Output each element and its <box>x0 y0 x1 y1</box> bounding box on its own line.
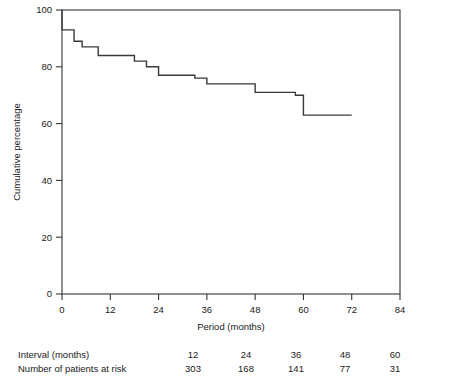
risk-table-interval-2: 36 <box>291 349 302 360</box>
y-axis-title: Cumulative percentage <box>11 103 22 201</box>
risk-table-interval-1: 24 <box>241 349 252 360</box>
risk-table-at-risk-4: 31 <box>390 363 401 374</box>
x-tick-label-36: 36 <box>202 304 213 315</box>
y-tick-label-0: 0 <box>47 288 52 299</box>
risk-table-row-label-at-risk: Number of patients at risk <box>18 363 126 374</box>
risk-table-at-risk-3: 77 <box>340 363 351 374</box>
y-tick-label-40: 40 <box>41 175 52 186</box>
risk-table-row-label-interval: Interval (months) <box>18 349 89 360</box>
risk-table-at-risk-0: 303 <box>185 363 201 374</box>
x-axis-title: Period (months) <box>197 321 265 332</box>
x-axis-ticks <box>62 294 400 300</box>
x-tick-label-60: 60 <box>298 304 309 315</box>
risk-table-interval-3: 48 <box>340 349 351 360</box>
x-tick-label-24: 24 <box>153 304 164 315</box>
risk-table-at-risk-2: 141 <box>288 363 304 374</box>
plot-frame <box>62 10 400 294</box>
x-tick-label-84: 84 <box>395 304 406 315</box>
risk-table-interval-4: 60 <box>390 349 401 360</box>
survival-step-curve <box>62 10 352 115</box>
y-tick-label-20: 20 <box>41 232 52 243</box>
y-axis-ticks <box>56 10 62 294</box>
risk-table-at-risk-row: 303 168 141 77 31 <box>185 363 400 374</box>
x-tick-label-0: 0 <box>59 304 64 315</box>
y-tick-label-80: 80 <box>41 61 52 72</box>
risk-table-interval-0: 12 <box>188 349 199 360</box>
x-tick-label-48: 48 <box>250 304 261 315</box>
x-tick-label-72: 72 <box>346 304 357 315</box>
x-tick-label-12: 12 <box>105 304 116 315</box>
risk-table-intervals-row: 12 24 36 48 60 <box>188 349 401 360</box>
risk-table-at-risk-1: 168 <box>238 363 254 374</box>
y-tick-label-100: 100 <box>36 4 52 15</box>
y-tick-label-60: 60 <box>41 118 52 129</box>
survival-chart-figure: 0 20 40 60 80 100 Cumulative percentage … <box>0 0 461 392</box>
